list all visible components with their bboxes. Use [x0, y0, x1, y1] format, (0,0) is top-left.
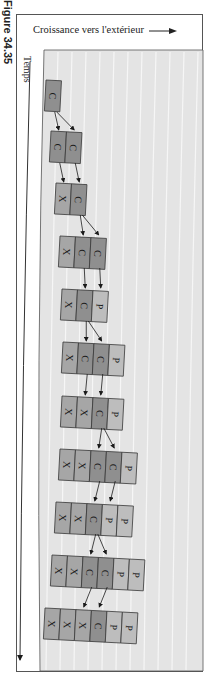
cell-lineage-diagram: Temps CCCXCXCCXCPXCCPXXCPXXCCPXXCPPXXCCP… [0, 0, 217, 690]
cell-row: XXXCPP [43, 608, 137, 644]
cell-label: P [110, 411, 121, 418]
cell-label: X [57, 514, 68, 523]
time-arrow-icon [20, 62, 30, 660]
cell-label: X [79, 409, 90, 418]
cell-label: X [77, 622, 88, 631]
cell-label: P [124, 625, 135, 632]
cell-label: X [69, 568, 80, 577]
cell-label: C [95, 356, 106, 364]
cell-row: XC [54, 183, 87, 216]
cell-label: C [92, 250, 103, 258]
cell-row: XXCCPP [50, 555, 144, 591]
cell-label: P [115, 571, 126, 578]
cell-row: XXCPP [54, 502, 133, 537]
cell-label: X [64, 354, 75, 363]
time-axis: Temps [20, 56, 33, 660]
cell-label: C [80, 355, 91, 363]
cell-label: C [94, 410, 105, 418]
cell-row: XCCP [61, 342, 125, 376]
cell-label: C [52, 143, 63, 151]
cell-label: P [94, 303, 105, 310]
cell-label: P [104, 517, 115, 524]
cell-label: X [57, 195, 68, 204]
cell-label: P [108, 624, 119, 631]
cell-label: C [73, 196, 84, 204]
cell-row: C [44, 80, 61, 112]
cell-label: C [88, 516, 99, 524]
cell-label: C [108, 464, 119, 472]
cell-label: C [92, 463, 103, 471]
cell-label: X [53, 567, 64, 576]
cell-label: X [46, 620, 57, 629]
cell-label: C [100, 570, 111, 578]
cell-row: XXCP [60, 396, 124, 430]
cell-label: X [77, 462, 88, 471]
cell-label: X [63, 408, 74, 417]
cell-label: X [61, 248, 72, 257]
cell-label: C [84, 569, 95, 577]
cell-label: P [119, 518, 130, 525]
cell-label: C [77, 249, 88, 257]
cell-row: XXCCP [58, 449, 137, 484]
cell-label: X [63, 301, 74, 310]
cell-label: P [131, 572, 142, 579]
cell-row: XCP [60, 289, 108, 322]
cell-label: X [73, 515, 84, 524]
cell-label: C [68, 144, 79, 152]
time-label: Temps [22, 56, 33, 83]
cell-label: P [123, 465, 134, 472]
cell-label: C [93, 623, 104, 631]
cell-label: C [47, 92, 58, 100]
cell-label: C [79, 302, 90, 310]
cell-row: XCC [58, 236, 106, 269]
cell-label: P [111, 357, 122, 364]
cell-label: X [62, 621, 73, 630]
cell-label: X [61, 461, 72, 470]
cell-row: CC [49, 131, 82, 164]
